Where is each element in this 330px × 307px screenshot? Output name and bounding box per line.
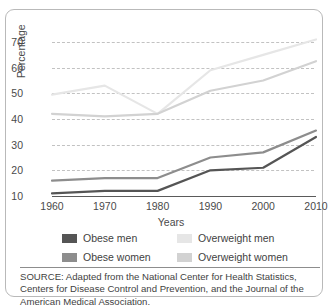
x-axis-title: Years bbox=[6, 216, 330, 228]
legend-label-obese-women: Obese women bbox=[83, 251, 151, 263]
legend-swatch-obese-women bbox=[62, 253, 77, 262]
y-tick-label: 10 bbox=[0, 190, 23, 202]
legend-row: Obese men Overweight men bbox=[62, 230, 302, 246]
y-tick-label: 20 bbox=[0, 164, 23, 176]
legend-swatch-overweight-men bbox=[177, 234, 192, 243]
source-note: SOURCE: Adapted from the National Center… bbox=[20, 271, 322, 307]
x-tick-label: 1970 bbox=[93, 200, 116, 212]
x-tick-label: 1980 bbox=[146, 200, 169, 212]
legend-label-overweight-men: Overweight men bbox=[198, 232, 274, 244]
y-tick-label: 40 bbox=[0, 113, 23, 125]
y-axis-title: Percentage bbox=[15, 24, 27, 78]
y-tick-label: 50 bbox=[0, 87, 23, 99]
legend-row: Obese women Overweight women bbox=[62, 249, 302, 265]
legend-item-obese-women[interactable]: Obese women bbox=[62, 251, 177, 263]
x-tick-label: 2010 bbox=[304, 200, 327, 212]
x-tick-label: 1990 bbox=[199, 200, 222, 212]
source-divider bbox=[20, 267, 320, 268]
figure-frame: 70605040302010 196019701980199020002010 … bbox=[5, 9, 323, 297]
legend-swatch-obese-men bbox=[62, 234, 77, 243]
legend-item-overweight-women[interactable]: Overweight women bbox=[177, 251, 288, 263]
y-tick-label: 30 bbox=[0, 139, 23, 151]
legend-label-obese-men: Obese men bbox=[83, 232, 137, 244]
chart-legend: Obese men Overweight men Obese women Ove… bbox=[62, 230, 302, 268]
x-tick-label: 2000 bbox=[252, 200, 275, 212]
x-tick-label: 1960 bbox=[40, 200, 63, 212]
legend-item-obese-men[interactable]: Obese men bbox=[62, 232, 177, 244]
legend-label-overweight-women: Overweight women bbox=[198, 251, 288, 263]
legend-item-overweight-men[interactable]: Overweight men bbox=[177, 232, 274, 244]
legend-swatch-overweight-women bbox=[177, 253, 192, 262]
